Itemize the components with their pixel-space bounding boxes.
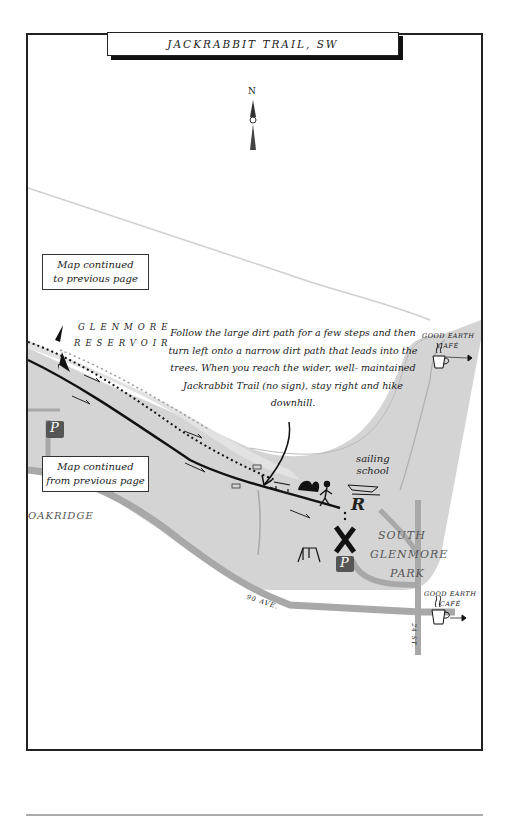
cafe-label-south: GOOD EARTH CAFÉ bbox=[424, 589, 476, 609]
continued-line1: Map continued bbox=[43, 258, 148, 272]
restroom-icon: R bbox=[351, 494, 365, 514]
continued-line1: Map continued bbox=[43, 460, 148, 474]
parking-label: P bbox=[50, 420, 59, 435]
continued-to-previous-box[interactable]: Map continued to previous page bbox=[42, 254, 149, 290]
continued-line2: from previous page bbox=[43, 474, 148, 488]
continued-from-previous-box[interactable]: Map continued from previous page bbox=[42, 456, 149, 492]
park-label-line3: PARK bbox=[390, 564, 425, 583]
continued-line2: to previous page bbox=[43, 272, 148, 286]
arrowhead-icon bbox=[55, 325, 63, 342]
map-title-box: JACKRABBIT TRAIL, SW bbox=[107, 32, 399, 56]
park-label-line1: SOUTH bbox=[378, 526, 426, 545]
compass-north-label: N bbox=[248, 86, 256, 96]
map-title: JACKRABBIT TRAIL, SW bbox=[167, 38, 338, 50]
trail-instructions: Follow the large dirt path for a few ste… bbox=[168, 324, 418, 412]
oakridge-label: OAKRIDGE bbox=[28, 510, 94, 521]
compass-icon bbox=[250, 100, 256, 150]
reservoir-label-line1: GLENMORE bbox=[78, 322, 172, 332]
cafe-label-north: GOOD EARTH CAFÉ bbox=[422, 331, 474, 351]
sailing-school-label: sailing school bbox=[356, 453, 390, 477]
park-label-line2: GLENMORE bbox=[370, 545, 448, 564]
parking-label: P bbox=[340, 555, 349, 570]
reservoir-label-line2: RESERVOIR bbox=[74, 338, 172, 348]
street-label: 24 ST. bbox=[411, 623, 418, 648]
